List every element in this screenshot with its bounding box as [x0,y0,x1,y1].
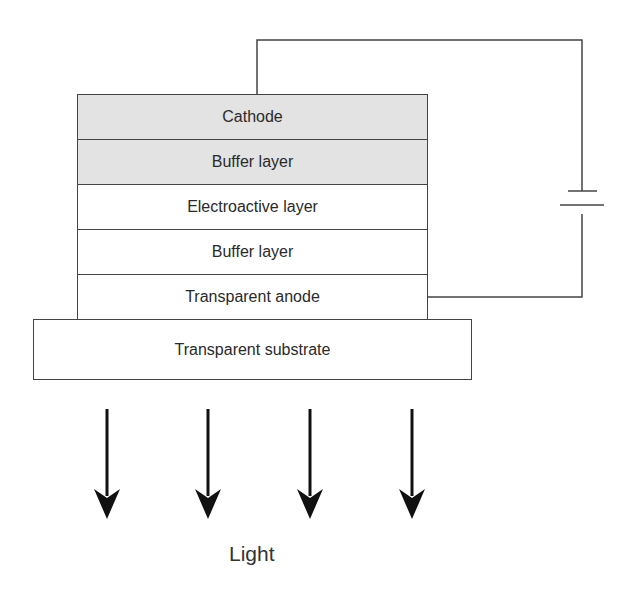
arrow-down-icon [297,409,323,519]
layer-label: Transparent anode [185,288,320,306]
arrow-down-icon [399,409,425,519]
layer-buffer-top: Buffer layer [77,139,428,185]
battery-icon [560,191,604,205]
layer-label: Transparent substrate [175,341,331,359]
light-label: Light [229,542,275,566]
layer-substrate: Transparent substrate [33,319,472,380]
arrow-down-icon [94,409,120,519]
light-arrows [94,409,425,519]
layer-label: Cathode [222,108,283,126]
layer-cathode: Cathode [77,94,428,140]
arrow-down-icon [195,409,221,519]
layer-label: Buffer layer [212,243,294,261]
layer-label: Electroactive layer [187,198,318,216]
layer-buffer-bottom: Buffer layer [77,229,428,275]
layer-anode: Transparent anode [77,274,428,320]
layer-label: Buffer layer [212,153,294,171]
layer-electroactive: Electroactive layer [77,184,428,230]
